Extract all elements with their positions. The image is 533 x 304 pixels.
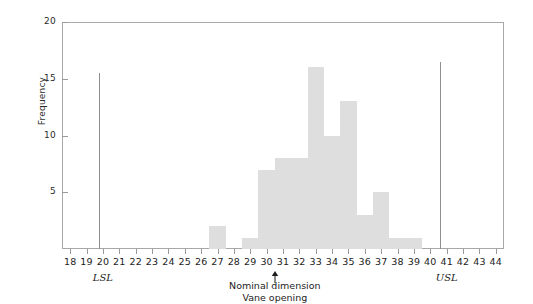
usl-label: USL [417, 272, 477, 283]
histogram-bar [389, 238, 405, 249]
x-tick-mark [136, 249, 137, 254]
x-tick-mark [201, 249, 202, 254]
histogram-bar [209, 226, 225, 249]
histogram-bar [308, 67, 324, 249]
nominal-dimension-arrow-icon [270, 268, 280, 280]
x-tick-mark [218, 249, 219, 254]
nominal-dimension-caption: Nominal dimension Vane opening [155, 280, 395, 304]
x-tick-mark [332, 249, 333, 254]
x-tick-label: 44 [484, 256, 508, 267]
lsl-line [99, 73, 100, 249]
x-tick-mark [119, 249, 120, 254]
x-tick-mark [168, 249, 169, 254]
x-tick-mark [152, 249, 153, 254]
x-tick-mark [185, 249, 186, 254]
x-tick-mark [496, 249, 497, 254]
usl-line [440, 62, 441, 249]
x-tick-mark [430, 249, 431, 254]
x-tick-mark [299, 249, 300, 254]
lsl-label: LSL [73, 272, 133, 283]
x-tick-mark [414, 249, 415, 254]
y-tick-mark [62, 192, 68, 193]
y-tick-label: 15 [24, 73, 56, 83]
x-tick-mark [447, 249, 448, 254]
y-tick-label: 10 [24, 130, 56, 140]
histogram-bar [357, 215, 373, 249]
y-axis-label: Frequency [37, 41, 47, 161]
x-tick-mark [381, 249, 382, 254]
x-tick-mark [348, 249, 349, 254]
x-tick-mark [87, 249, 88, 254]
histogram-bar [324, 136, 340, 250]
histogram-bar [373, 192, 389, 249]
histogram-bar [242, 238, 258, 249]
x-tick-mark [70, 249, 71, 254]
histogram-bar [275, 158, 291, 249]
histogram-figure: Frequency 2015105 LSLUSL 181920212223242… [0, 0, 533, 304]
histogram-bar [406, 238, 422, 249]
x-tick-mark [103, 249, 104, 254]
x-tick-mark [316, 249, 317, 254]
y-tick-mark [62, 79, 68, 80]
histogram-bar [340, 101, 356, 249]
x-tick-mark [283, 249, 284, 254]
x-tick-mark [234, 249, 235, 254]
x-tick-mark [463, 249, 464, 254]
y-tick-mark [62, 22, 68, 23]
x-tick-mark [250, 249, 251, 254]
y-tick-label: 20 [24, 16, 56, 26]
histogram-bar [291, 158, 307, 249]
nominal-caption-line1: Nominal dimension [155, 280, 395, 292]
x-tick-mark [365, 249, 366, 254]
histogram-bar [258, 170, 274, 249]
y-tick-label: 5 [24, 186, 56, 196]
x-tick-mark [267, 249, 268, 254]
x-axis-label: Vane opening [155, 292, 395, 304]
x-tick-mark [398, 249, 399, 254]
x-tick-mark [479, 249, 480, 254]
y-tick-mark [62, 136, 68, 137]
